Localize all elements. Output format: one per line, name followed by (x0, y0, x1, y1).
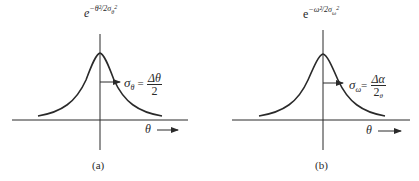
sigma-subscript: θ (130, 83, 134, 92)
panel-a-caption: (a) (92, 159, 104, 171)
exp-sup: 2 (336, 5, 339, 11)
exp-sup: 2 (114, 4, 117, 10)
panel-b-y-label: e−ω²/2σω2 (303, 7, 339, 22)
panel-a-y-label: e−θ²/2σθ2 (84, 6, 117, 21)
panel-b-caption: (b) (315, 159, 328, 171)
fraction: Δθ 2 (147, 72, 162, 97)
panel-b-x-label: θ (366, 123, 372, 138)
sigma-subscript: ω (355, 85, 361, 94)
panel-a-x-label: θ (145, 122, 151, 137)
denominator-subscript: θ (379, 92, 382, 100)
exp-text: −θ²/2σ (89, 4, 111, 13)
panel-a-y-label-exponent: −θ²/2σθ2 (89, 4, 117, 13)
denominator: 2 (152, 85, 158, 97)
fraction: Δα 2θ (371, 73, 386, 100)
exp-text: −ω²/2σ (308, 5, 332, 14)
equals-sign: = (138, 77, 144, 89)
panel-b-y-label-exponent: −ω²/2σω2 (308, 5, 339, 14)
denominator: 2θ (373, 86, 382, 100)
equals-sign: = (361, 79, 367, 91)
panel-a-annotation: σθ = Δθ 2 (124, 72, 162, 97)
panel-b-annotation: σω= Δα 2θ (349, 73, 386, 100)
